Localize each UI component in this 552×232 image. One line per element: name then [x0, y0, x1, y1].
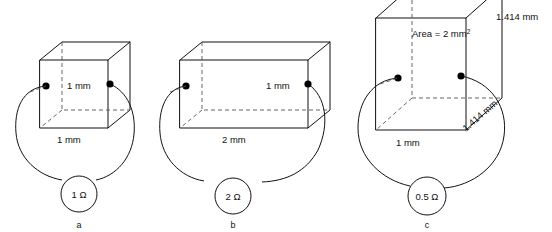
terminal-dot-right-b	[304, 80, 311, 87]
label-height-b: 1 mm	[266, 80, 290, 91]
wire-right-a	[96, 84, 134, 180]
label-area-c: Area = 2 mm2	[412, 28, 471, 40]
wire-left-c	[358, 78, 410, 186]
terminal-lead-left-a	[30, 86, 46, 92]
panel-a: 1 mm 1 mm 1 Ω a	[16, 42, 135, 230]
label-width-c: 1 mm	[396, 137, 420, 148]
label-width-b: 2 mm	[222, 134, 246, 145]
wire-left-b	[160, 86, 204, 181]
label-height-c: 1.414 mm	[496, 11, 538, 22]
resistance-value-c: 0.5 Ω	[416, 191, 439, 202]
panel-c: Area = 2 mm2 1.414 mm 1.414 mm 1 mm 0.5 …	[358, 0, 538, 230]
resistance-value-a: 1 Ω	[71, 189, 86, 200]
panel-caption-c: c	[425, 220, 430, 230]
label-height-a: 1 mm	[67, 80, 91, 91]
resistance-value-b: 2 Ω	[225, 191, 240, 202]
terminal-dot-left-c	[394, 74, 401, 81]
terminal-dot-right-a	[106, 80, 113, 87]
label-width-a: 1 mm	[57, 134, 81, 145]
terminal-lead-left-c	[380, 78, 398, 84]
panel-caption-a: a	[76, 220, 81, 230]
resistor-geometry-figure: 1 mm 1 mm 1 Ω a 1 mm 2 mm 2 Ω b	[0, 0, 552, 232]
panel-caption-b: b	[230, 220, 235, 230]
terminal-dot-right-c	[457, 72, 464, 79]
terminal-lead-left-b	[170, 86, 186, 92]
panel-b: 1 mm 2 mm 2 Ω b	[160, 42, 330, 230]
wire-right-b	[262, 84, 325, 182]
wire-left-a	[16, 86, 62, 180]
wire-right-c	[444, 76, 505, 188]
